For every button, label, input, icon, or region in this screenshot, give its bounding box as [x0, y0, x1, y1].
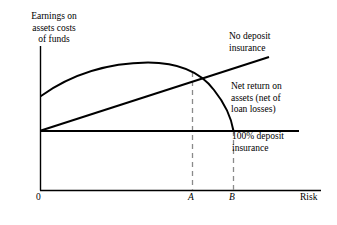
x-tick-b: B	[229, 192, 235, 203]
x-tick-a: A	[188, 192, 194, 203]
chart-figure: Earnings on assets costs of funds No dep…	[0, 0, 337, 225]
x-tick-origin: 0	[36, 192, 41, 203]
x-axis-label: Risk	[300, 192, 317, 203]
y-axis-label: Earnings on assets costs of funds	[14, 11, 94, 46]
annotation-full-deposit-insurance: 100% deposit insurance	[232, 131, 334, 154]
annotation-net-return-on-assets: Net return on assets (net of loan losses…	[231, 81, 335, 116]
annotation-no-deposit-insurance: No deposit insurance	[229, 31, 333, 54]
